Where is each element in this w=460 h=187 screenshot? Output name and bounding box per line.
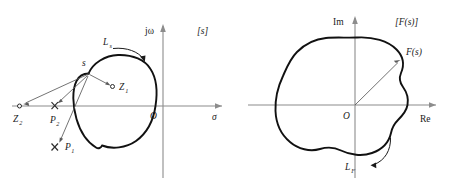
pole-1-label: P bbox=[64, 142, 71, 152]
point-s-marker bbox=[87, 72, 90, 75]
sigma-axis-label: σ bbox=[212, 112, 217, 122]
jomega-axis bbox=[160, 24, 166, 178]
sigma-axis bbox=[12, 103, 222, 109]
s-plane-diagram: s Z 1 Z 2 P 2 bbox=[0, 0, 230, 187]
im-axis-label: Im bbox=[333, 17, 344, 27]
s-plane-contour bbox=[73, 55, 156, 148]
contour-label-ls: L bbox=[102, 37, 108, 47]
vector-s-to-z2 bbox=[23, 75, 87, 106]
zero-2-marker bbox=[18, 104, 22, 108]
fs-contour-label-sub: F bbox=[350, 167, 355, 174]
zero-2-label: Z bbox=[13, 114, 19, 124]
zero-1-label: Z bbox=[119, 82, 125, 92]
vector-fs bbox=[355, 60, 401, 105]
origin-label-left: O bbox=[150, 111, 157, 121]
fs-plane-contour bbox=[275, 37, 407, 155]
fs-vector-label: F(s) bbox=[405, 47, 422, 58]
vector-s-to-p1 bbox=[59, 76, 88, 143]
zero-1-marker bbox=[111, 85, 115, 89]
figure-root: s Z 1 Z 2 P 2 bbox=[0, 0, 460, 187]
pole-2-label-sub: 2 bbox=[56, 120, 59, 127]
re-axis-label: Re bbox=[420, 114, 431, 124]
jomega-axis-label: jω bbox=[144, 26, 154, 36]
pole-1-marker bbox=[52, 144, 59, 151]
fs-plane-diagram: F(s) L F Im Re O [F(s)] bbox=[230, 0, 460, 187]
contour-label-ls-sub: s bbox=[110, 42, 113, 49]
s-plane-label: [s] bbox=[197, 26, 208, 36]
fs-contour-label: L bbox=[344, 162, 350, 172]
vector-s-to-z1 bbox=[90, 75, 111, 86]
zero-2-label-sub: 2 bbox=[19, 119, 22, 126]
pole-1-label-sub: 1 bbox=[71, 147, 74, 154]
fs-plane-label: [F(s)] bbox=[395, 17, 419, 28]
zero-1-label-sub: 1 bbox=[125, 87, 128, 94]
point-s-label: s bbox=[82, 58, 86, 68]
pole-2-label: P bbox=[49, 115, 56, 125]
origin-label-right: O bbox=[343, 111, 350, 121]
